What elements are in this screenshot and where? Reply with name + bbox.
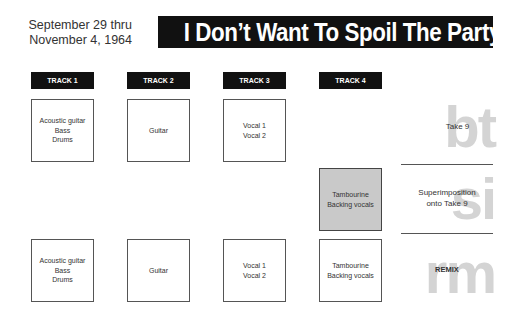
instrument-label: Guitar — [149, 266, 168, 276]
instrument-label: Vocal 2 — [243, 131, 266, 141]
instrument-label: Vocal 2 — [243, 271, 266, 281]
track-header-4: TRACK 4 — [319, 72, 382, 89]
song-title: I Don’t Want To Spoil The Party — [158, 16, 493, 48]
take9-track1-box: Acoustic guitar Bass Drums — [31, 99, 94, 162]
instrument-label: Backing vocals — [327, 271, 374, 281]
instrument-label: Vocal 1 — [243, 121, 266, 131]
remix-track2-box: Guitar — [127, 239, 190, 302]
session-dates: September 29 thru November 4, 1964 — [20, 18, 132, 48]
instrument-label: Backing vocals — [327, 200, 374, 210]
remix-track3-box: Vocal 1 Vocal 2 — [223, 239, 286, 302]
instrument-label: Tambourine — [327, 190, 374, 200]
instrument-label: Guitar — [149, 126, 168, 136]
instrument-label: Tambourine — [327, 261, 374, 271]
take-label: Take 9 — [420, 121, 495, 132]
song-title-text: I Don’t Want To Spoil The Party — [184, 16, 501, 48]
instrument-label: Vocal 1 — [243, 261, 266, 271]
instrument-label: Bass — [40, 126, 86, 136]
remix-label: REMIX — [401, 264, 493, 275]
instrument-label: Acoustic guitar — [40, 256, 86, 266]
superimposition-label-line-1: Superimposition — [401, 187, 493, 198]
instrument-label: Bass — [40, 266, 86, 276]
take9-track3-box: Vocal 1 Vocal 2 — [223, 99, 286, 162]
divider-line — [401, 233, 493, 234]
divider-line — [401, 164, 493, 165]
track-header-1: TRACK 1 — [31, 72, 94, 89]
superimposition-track4-box: Tambourine Backing vocals — [319, 168, 382, 231]
remix-track1-box: Acoustic guitar Bass Drums — [31, 239, 94, 302]
instrument-label: Drums — [40, 135, 86, 145]
take9-track2-box: Guitar — [127, 99, 190, 162]
superimposition-label-line-2: onto Take 9 — [401, 198, 493, 209]
date-line-1: September 29 thru — [20, 18, 132, 33]
date-line-2: November 4, 1964 — [20, 33, 132, 48]
instrument-label: Acoustic guitar — [40, 116, 86, 126]
track-header-2: TRACK 2 — [127, 72, 190, 89]
superimposition-label: Superimposition onto Take 9 — [401, 187, 493, 209]
remix-track4-box: Tambourine Backing vocals — [319, 239, 382, 302]
track-header-3: TRACK 3 — [223, 72, 286, 89]
instrument-label: Drums — [40, 275, 86, 285]
